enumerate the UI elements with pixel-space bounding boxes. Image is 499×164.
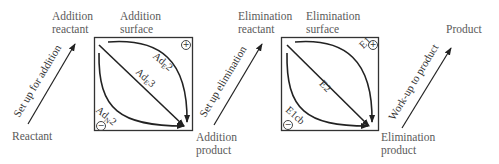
minus-charge-icon: − xyxy=(283,120,293,130)
elimination-reactant-label: Elimination reactant xyxy=(238,10,292,36)
plus-charge-icon: + xyxy=(181,40,191,50)
elimination-reactant-line2: reactant xyxy=(238,23,292,36)
elimination-product-label: Elimination product xyxy=(381,131,435,157)
elimination-product-line1: Elimination xyxy=(381,131,435,144)
elimination-product-line2: product xyxy=(381,144,435,157)
addition-surface-line1: Addition xyxy=(120,10,161,23)
addition-product-line2: product xyxy=(196,144,237,157)
reactant-label: Reactant xyxy=(12,130,52,143)
addition-reactant-label: Addition reactant xyxy=(52,10,93,36)
elimination-surface-label: Elimination surface xyxy=(306,10,360,36)
addition-product-label: Addition product xyxy=(196,131,237,157)
minus-charge-icon: − xyxy=(96,121,106,131)
plus-charge-icon: + xyxy=(368,40,378,50)
addition-reactant-line1: Addition xyxy=(52,10,93,23)
elimination-top-path xyxy=(295,42,372,122)
addition-product-line1: Addition xyxy=(196,131,237,144)
addition-surface-line2: surface xyxy=(120,23,161,36)
addition-surface-label: Addition surface xyxy=(120,10,161,36)
product-label: Product xyxy=(446,23,482,36)
elimination-surface-line1: Elimination xyxy=(306,10,360,23)
addition-reactant-line2: reactant xyxy=(52,23,93,36)
elimination-reactant-line1: Elimination xyxy=(238,10,292,23)
reaction-surface-diagram: Reactant Addition reactant Addition surf… xyxy=(0,0,499,164)
elimination-surface-line2: surface xyxy=(306,23,360,36)
